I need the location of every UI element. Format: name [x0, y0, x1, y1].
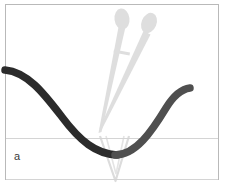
panel-label: a [14, 150, 20, 162]
figure-canvas [0, 0, 226, 186]
instrument-left-head-icon [113, 8, 130, 31]
waveform-dark-segment [5, 70, 117, 155]
instrument-right-shaft-icon [100, 31, 151, 130]
figure-panel: a [0, 0, 226, 186]
instrument-right-head-icon [138, 10, 160, 35]
